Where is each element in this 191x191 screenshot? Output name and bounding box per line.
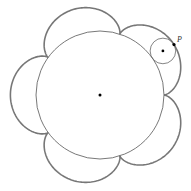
point-p — [172, 43, 175, 46]
epicycloid-diagram: P — [0, 0, 191, 191]
rolling-circle-center — [162, 50, 165, 53]
point-p-label: P — [177, 35, 182, 44]
fixed-circle-center — [99, 94, 102, 97]
diagram-canvas — [0, 0, 191, 191]
